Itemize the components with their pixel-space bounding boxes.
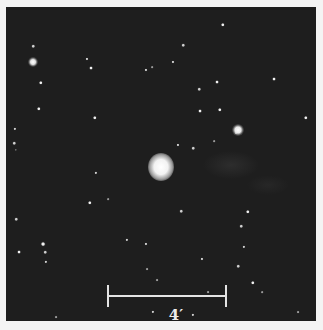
- star: [215, 80, 219, 84]
- star: [107, 198, 110, 201]
- scale-bar-label: 4′: [156, 306, 196, 321]
- star: [261, 291, 264, 294]
- star: [15, 149, 17, 151]
- star: [242, 245, 245, 248]
- star: [14, 217, 18, 221]
- star: [272, 77, 276, 81]
- star: [179, 209, 183, 213]
- star: [297, 311, 300, 314]
- scale-bar-right-tick: [225, 285, 227, 307]
- star: [246, 210, 250, 214]
- scale-bar-line: [107, 295, 227, 297]
- star: [44, 260, 47, 263]
- star: [146, 268, 149, 271]
- star: [181, 43, 185, 47]
- star: [239, 224, 243, 228]
- central-nebula: [148, 153, 174, 181]
- star: [94, 171, 97, 174]
- star: [218, 108, 222, 112]
- star: [197, 87, 201, 91]
- star: [200, 257, 203, 260]
- star: [151, 66, 154, 69]
- star: [17, 250, 21, 254]
- star: [151, 310, 154, 313]
- star: [198, 109, 202, 113]
- star: [236, 264, 240, 268]
- star: [89, 66, 93, 70]
- star: [176, 143, 179, 146]
- star: [171, 60, 174, 63]
- star: [144, 242, 147, 245]
- star: [39, 81, 43, 85]
- star: [88, 201, 92, 205]
- star: [93, 116, 97, 120]
- bright-star: [232, 124, 244, 136]
- star: [304, 116, 308, 120]
- star: [213, 140, 216, 143]
- star: [85, 57, 88, 60]
- star: [41, 242, 46, 247]
- star: [55, 316, 58, 319]
- star: [125, 238, 128, 241]
- star: [12, 141, 16, 145]
- star-field-image: 4′: [6, 7, 316, 321]
- star: [156, 279, 159, 282]
- star: [251, 281, 255, 285]
- bright-star: [28, 57, 38, 67]
- star: [43, 250, 47, 254]
- scale-bar: [107, 285, 227, 307]
- star: [13, 127, 16, 130]
- star: [191, 146, 195, 150]
- star: [144, 68, 147, 71]
- star: [221, 23, 225, 27]
- star: [37, 107, 41, 111]
- star: [31, 44, 35, 48]
